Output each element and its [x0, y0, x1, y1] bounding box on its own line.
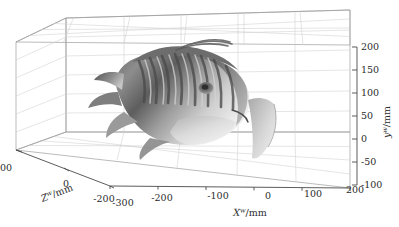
z-tick-label-200: 200: [0, 162, 12, 173]
grid-line: [42, 28, 351, 30]
box-left-face: [16, 18, 66, 150]
grid-line: [30, 146, 351, 147]
svg-text:yw/mm: yw/mm: [381, 106, 393, 139]
grid-line: [16, 37, 66, 60]
x-axis-title: Xw/mm: [232, 206, 267, 218]
z-axis-title: Zw/mm: [38, 181, 74, 204]
y-tick-label-150: 150: [361, 64, 379, 75]
y-tick-label-100: 100: [361, 87, 379, 98]
grid-line: [124, 16, 130, 43]
svg-text:Xw/mm: Xw/mm: [232, 206, 267, 218]
plot-3d-axes: 200 0 -200 -300 -200 -100 0 100 200 -100…: [0, 0, 399, 227]
fish-eye-pupil: [202, 84, 208, 89]
y-axis-title: yw/mm: [381, 106, 393, 139]
x-tick-label-neg100: -100: [207, 190, 228, 201]
y-axis-ticks: [352, 47, 357, 185]
fish-surface-mesh: [88, 40, 276, 160]
y-tick-label-neg100: -100: [361, 179, 382, 190]
x-tick-label-neg200: -200: [151, 192, 172, 203]
grid-top-face: [30, 12, 351, 46]
fish-tail-fin: [248, 98, 276, 159]
grid-line: [16, 94, 66, 114]
x-tick-label-0: 0: [265, 190, 271, 201]
grid-line: [16, 56, 66, 78]
z-tick: [64, 168, 69, 171]
y-tick-label-0: 0: [361, 133, 367, 144]
y-axis-unit: /mm: [381, 106, 392, 127]
y-tick-label-200: 200: [361, 41, 379, 52]
y-tick-label-50: 50: [361, 110, 373, 121]
svg-text:Zw/mm: Zw/mm: [38, 181, 74, 204]
y-tick-label-neg50: -50: [361, 156, 376, 167]
x-tick-label-100: 100: [304, 188, 322, 199]
fish-rear-fin-mid: [88, 92, 122, 108]
x-axis-unit: /mm: [246, 207, 267, 218]
figure-canvas: 200 0 -200 -300 -200 -100 0 100 200 -100…: [0, 0, 399, 227]
grid-line: [237, 132, 238, 175]
grid-line: [54, 24, 350, 37]
fish-belly: [170, 116, 236, 145]
z-axis-unit: /mm: [51, 182, 75, 200]
grid-line: [66, 30, 350, 37]
grid-line: [16, 75, 66, 96]
grid-line: [64, 18, 74, 43]
grid-left-face: [16, 37, 66, 132]
x-tick-label-neg300: -300: [112, 197, 133, 208]
grid-line: [16, 113, 66, 132]
